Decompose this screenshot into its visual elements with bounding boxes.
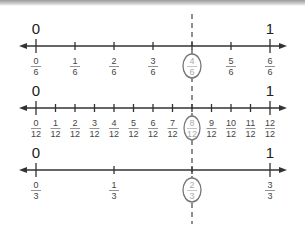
fraction-numerator: 0 xyxy=(33,180,38,190)
fraction-denominator: 12 xyxy=(89,129,99,139)
fraction-numerator: 5 xyxy=(228,56,233,66)
fraction-numerator: 5 xyxy=(131,118,136,128)
fraction-numerator: 3 xyxy=(150,56,155,66)
fraction-denominator: 3 xyxy=(111,191,116,201)
fraction-denominator: 12 xyxy=(206,129,216,139)
fraction-numerator: 1 xyxy=(72,56,77,66)
start-label: 0 xyxy=(32,20,40,37)
fraction-denominator: 6 xyxy=(150,67,155,77)
fraction-denominator: 12 xyxy=(31,129,41,139)
fraction-numerator: 11 xyxy=(246,118,255,128)
fraction-numerator: 1 xyxy=(53,118,58,128)
fraction-denominator: 12 xyxy=(226,129,236,139)
fraction-numerator: 0 xyxy=(33,118,38,128)
start-label: 0 xyxy=(32,144,40,161)
fraction-numerator: 8 xyxy=(189,118,194,128)
end-label: 1 xyxy=(266,144,274,161)
fraction-denominator: 12 xyxy=(265,129,275,139)
fraction-denominator: 6 xyxy=(72,67,77,77)
right-arrow-icon xyxy=(279,105,287,111)
left-arrow-icon xyxy=(19,105,27,111)
fraction-denominator: 12 xyxy=(148,129,158,139)
fraction-numerator: 1 xyxy=(111,180,116,190)
number-line-diagram: 0106162636465666010121122123124125126127… xyxy=(0,0,305,227)
fraction-numerator: 0 xyxy=(33,56,38,66)
fraction-denominator: 12 xyxy=(187,129,197,139)
fraction-denominator: 12 xyxy=(245,129,255,139)
fraction-denominator: 6 xyxy=(267,67,272,77)
left-arrow-icon xyxy=(19,167,27,173)
fraction-numerator: 2 xyxy=(111,56,116,66)
fraction-denominator: 12 xyxy=(167,129,177,139)
fraction-denominator: 12 xyxy=(128,129,138,139)
fraction-denominator: 3 xyxy=(267,191,272,201)
fraction-denominator: 6 xyxy=(111,67,116,77)
fraction-denominator: 12 xyxy=(109,129,119,139)
right-arrow-icon xyxy=(279,43,287,49)
fraction-numerator: 10 xyxy=(226,118,236,128)
fraction-denominator: 3 xyxy=(33,191,38,201)
fraction-numerator: 12 xyxy=(265,118,275,128)
end-label: 1 xyxy=(266,20,274,37)
fraction-numerator: 6 xyxy=(150,118,155,128)
end-label: 1 xyxy=(266,82,274,99)
right-arrow-icon xyxy=(279,167,287,173)
fraction-numerator: 2 xyxy=(189,180,194,190)
fraction-denominator: 3 xyxy=(189,191,194,201)
fraction-denominator: 6 xyxy=(189,67,194,77)
fraction-denominator: 6 xyxy=(33,67,38,77)
fraction-numerator: 3 xyxy=(92,118,97,128)
fraction-denominator: 12 xyxy=(70,129,80,139)
fraction-numerator: 6 xyxy=(267,56,272,66)
fraction-denominator: 12 xyxy=(50,129,60,139)
fraction-numerator: 4 xyxy=(111,118,116,128)
fraction-numerator: 4 xyxy=(189,56,194,66)
fraction-numerator: 9 xyxy=(209,118,214,128)
fraction-numerator: 2 xyxy=(72,118,77,128)
fraction-denominator: 6 xyxy=(228,67,233,77)
fraction-numerator: 7 xyxy=(170,118,175,128)
start-label: 0 xyxy=(32,82,40,99)
left-arrow-icon xyxy=(19,43,27,49)
fraction-numerator: 3 xyxy=(267,180,272,190)
